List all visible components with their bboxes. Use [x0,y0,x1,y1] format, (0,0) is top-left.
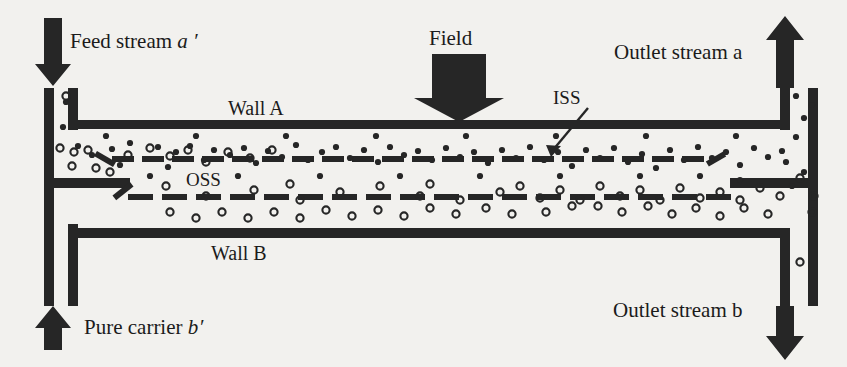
iss-dash [322,156,344,162]
particle-filled [109,146,115,152]
outlet-b-divider [780,228,790,306]
particle-filled [681,157,687,163]
particle-filled [319,149,325,155]
oss-dash [230,194,255,200]
particle-filled [667,147,673,153]
particle-open [162,182,169,189]
particle-open [496,188,503,195]
particle-open [270,208,277,215]
oss-dash [264,194,289,200]
oss-dash [502,194,527,200]
particle-filled [477,173,483,179]
particle-filled [241,145,247,151]
pure-carrier-label: Pure carrier b′ [84,317,204,338]
particle-open [68,162,75,169]
particle-filled [541,157,547,163]
particle-open [376,182,383,189]
particle-filled [147,173,153,179]
particle-open [426,204,433,211]
pure-carrier-symbol: b′ [188,315,204,339]
particle-filled [737,162,743,168]
wall-b-label: Wall B [211,243,267,263]
particle-open [296,214,303,221]
particle-open [286,180,293,187]
iss-dashed-line [112,156,704,162]
outlet-a-symbol: a [733,40,742,64]
wall-a-label: Wall A [228,98,284,118]
particle-open [452,210,459,217]
particle-open [146,144,153,151]
inlet-splitter-plate [54,178,130,188]
outlet-b-symbol: b [732,298,743,322]
particle-filled [695,144,701,150]
particle-open [106,168,113,175]
iss-dash [382,156,404,162]
particle-open [166,208,173,215]
field-label: Field [429,28,472,49]
particle-filled [569,163,575,169]
particle-open [250,186,257,193]
iss-dash [592,156,614,162]
particle-filled [457,154,463,160]
particle-filled [697,173,703,179]
particle-filled [793,93,799,99]
oss-dash [672,194,697,200]
particle-open [796,258,803,265]
outlet-stream-b-label: Outlet stream b [613,300,742,321]
particle-open [736,196,743,203]
oss-dash [434,194,459,200]
particle-filled [553,133,559,139]
iss-callout-arrow [546,108,588,157]
particle-filled [527,144,533,150]
particle-filled [779,148,785,154]
particle-filled [557,173,563,179]
outlet-a-arrow [766,16,804,88]
particle-filled [401,152,407,158]
particle-filled [765,154,771,160]
outlet-a-shelf [758,120,790,129]
particle-filled [165,164,171,170]
particle-filled [347,155,353,161]
particle-filled [485,160,491,166]
particle-filled [361,147,367,153]
particle-open [374,206,381,213]
particle-filled [415,148,421,154]
particle-open [400,212,407,219]
particle-open [348,212,355,219]
particle-filled [443,145,449,151]
particle-open [192,214,199,221]
particle-open [56,144,63,151]
particle-filled [583,147,589,153]
particle-filled [751,145,757,151]
channel-walls [68,120,790,238]
particle-open [542,208,549,215]
particle-filled [801,115,807,121]
oss-label: OSS [186,170,221,189]
particle-filled [643,133,649,139]
particle-open [636,186,643,193]
particle-filled [293,142,299,148]
wall-a [68,120,790,129]
particle-filled [653,165,659,171]
particle-open [692,204,699,211]
iss-dash [172,156,194,162]
oss-dash [468,194,493,200]
field-arrow [414,54,504,122]
particle-filled [471,149,477,155]
particle-filled [789,183,795,189]
iss-label: ISS [553,88,580,107]
particle-filled [373,133,379,139]
particle-filled [625,159,631,165]
iss-dash [502,156,524,162]
particle-filled [305,157,311,163]
particle-filled [611,145,617,151]
particle-open [482,204,489,211]
iss-dash [472,156,494,162]
particle-filled [709,155,715,161]
particle-filled [737,177,743,183]
particle-open [508,210,515,217]
particle-open [218,208,225,215]
oss-dash [366,194,391,200]
particle-filled [283,133,289,139]
oss-dash [332,194,357,200]
